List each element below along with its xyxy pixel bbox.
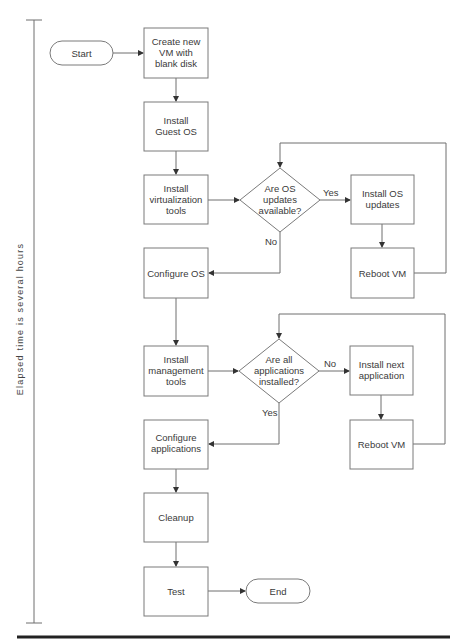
svg-text:End: End bbox=[270, 586, 287, 597]
svg-text:applications: applications bbox=[254, 365, 304, 376]
svg-text:application: application bbox=[359, 370, 404, 381]
svg-text:Install: Install bbox=[164, 115, 189, 126]
svg-text:updates: updates bbox=[263, 194, 297, 205]
svg-text:virtualization: virtualization bbox=[150, 194, 203, 205]
node-install-os-updates: Install OS updates bbox=[351, 175, 414, 224]
node-start: Start bbox=[50, 41, 113, 65]
svg-text:Start: Start bbox=[71, 48, 91, 59]
node-cleanup: Cleanup bbox=[144, 493, 208, 542]
svg-text:installed?: installed? bbox=[259, 376, 299, 387]
node-configure-applications: Configure applications bbox=[144, 420, 208, 469]
edge-label-os-yes: Yes bbox=[323, 187, 339, 198]
svg-text:blank disk: blank disk bbox=[155, 58, 197, 69]
svg-text:Reboot VM: Reboot VM bbox=[358, 439, 406, 450]
svg-text:Configure OS: Configure OS bbox=[147, 268, 205, 279]
node-configure-os: Configure OS bbox=[144, 248, 208, 298]
node-end: End bbox=[246, 579, 310, 603]
svg-text:Install OS: Install OS bbox=[362, 188, 403, 199]
svg-text:Install: Install bbox=[164, 354, 189, 365]
svg-text:tools: tools bbox=[166, 376, 186, 387]
svg-text:VM with: VM with bbox=[159, 47, 193, 58]
edge-label-apps-yes: Yes bbox=[262, 407, 278, 418]
decision-apps-installed: Are all applications installed? bbox=[239, 339, 319, 403]
node-create-vm: Create new VM with blank disk bbox=[144, 28, 208, 78]
svg-text:available?: available? bbox=[259, 205, 302, 216]
svg-text:Reboot VM: Reboot VM bbox=[359, 268, 407, 279]
vm-build-flowchart: Elapsed time is several hours Yes No No … bbox=[0, 0, 468, 644]
edge-label-os-no: No bbox=[265, 236, 277, 247]
svg-text:Create new: Create new bbox=[152, 36, 201, 47]
svg-text:applications: applications bbox=[151, 443, 201, 454]
svg-text:Are OS: Are OS bbox=[264, 183, 295, 194]
decision-os-updates: Are OS updates available? bbox=[240, 168, 320, 232]
node-reboot-vm-1: Reboot VM bbox=[351, 248, 414, 298]
node-install-virtualization-tools: Install virtualization tools bbox=[144, 175, 208, 224]
node-install-management-tools: Install management tools bbox=[144, 346, 208, 396]
timeline-label: Elapsed time is several hours bbox=[15, 243, 25, 395]
svg-text:management: management bbox=[148, 365, 204, 376]
timeline: Elapsed time is several hours bbox=[15, 20, 42, 623]
svg-text:Are all: Are all bbox=[266, 354, 293, 365]
svg-text:Guest OS: Guest OS bbox=[155, 126, 197, 137]
node-install-next-application: Install next application bbox=[350, 346, 413, 395]
svg-text:Install next: Install next bbox=[359, 359, 405, 370]
node-install-guest-os: Install Guest OS bbox=[144, 102, 208, 151]
svg-text:Configure: Configure bbox=[155, 432, 196, 443]
svg-text:Test: Test bbox=[167, 586, 185, 597]
node-test: Test bbox=[144, 567, 208, 616]
node-reboot-vm-2: Reboot VM bbox=[350, 420, 413, 469]
svg-text:updates: updates bbox=[366, 199, 400, 210]
svg-text:Cleanup: Cleanup bbox=[158, 512, 193, 523]
edge-label-apps-no: No bbox=[324, 358, 336, 369]
svg-text:Install: Install bbox=[164, 183, 189, 194]
svg-text:tools: tools bbox=[166, 205, 186, 216]
